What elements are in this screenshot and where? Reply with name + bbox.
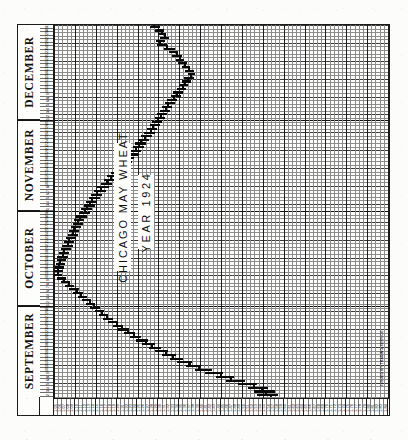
ohlc-open-tick [89, 204, 91, 206]
ohlc-open-tick [176, 94, 178, 96]
month-label-text: DECEMBER [23, 36, 35, 107]
ohlc-open-tick [145, 342, 147, 344]
ohlc-open-tick [127, 331, 129, 333]
month-label-text: NOVEMBER [23, 128, 35, 201]
ohlc-open-tick [144, 138, 146, 140]
day-label-text: 7 [44, 286, 49, 288]
chart-title: CHICAGO MAY WHEAT [114, 143, 131, 271]
ohlc-open-tick [72, 288, 74, 290]
chart-sheet: DECEMBERNOVEMBEROCTOBERSEPTEMBER 3130292… [17, 24, 390, 416]
day-label-text: 5 [44, 197, 49, 199]
ohlc-open-tick [242, 383, 244, 385]
ohlc-open-tick [159, 43, 161, 45]
ohlc-open-tick [140, 142, 142, 144]
price-label: 1.84 [384, 399, 388, 415]
ohlc-open-tick [84, 211, 86, 213]
ohlc-open-tick [89, 302, 91, 304]
ohlc-open-tick [106, 317, 108, 319]
month-label-october: OCTOBER [18, 211, 40, 306]
ohlc-range-bar [257, 394, 278, 396]
ohlc-open-tick [139, 339, 141, 341]
day-label-text: 6 [44, 379, 49, 381]
ohlc-open-tick [157, 120, 159, 122]
ohlc-open-tick [147, 135, 149, 137]
ohlc-open-tick [184, 65, 186, 67]
ohlc-open-tick [198, 368, 200, 370]
day-label-text: 4 [44, 293, 49, 295]
chart-subtitle: YEAR 1924 [138, 175, 154, 249]
ohlc-open-tick [151, 346, 153, 348]
ohlc-open-tick [209, 372, 211, 374]
day-label: 2 [40, 393, 54, 397]
ohlc-open-tick [96, 193, 98, 195]
ohlc-open-tick [161, 32, 163, 34]
ohlc-open-tick [165, 353, 167, 355]
day-label-text: 3 [44, 204, 49, 206]
ohlc-open-tick [116, 324, 118, 326]
day-label-text: 3 [44, 111, 49, 113]
ohlc-open-tick [94, 197, 96, 199]
ohlc-open-tick [103, 186, 105, 188]
ohlc-open-tick [161, 40, 163, 42]
ohlc-bars-layer [54, 25, 389, 398]
ohlc-open-tick [150, 131, 152, 133]
day-label-text: 6 [44, 193, 49, 195]
month-axis: DECEMBERNOVEMBEROCTOBERSEPTEMBER [18, 25, 40, 415]
ohlc-open-tick [101, 313, 103, 315]
ohlc-open-tick [165, 109, 167, 111]
chart-subtitle-text: YEAR 1924 [140, 172, 152, 253]
ohlc-open-tick [84, 299, 86, 301]
ohlc-open-tick [184, 83, 186, 85]
day-label-text: 7 [44, 190, 49, 192]
ohlc-open-tick [188, 69, 190, 71]
month-label-text: SEPTEMBER [23, 313, 35, 389]
day-label-text: 9 [44, 372, 49, 374]
ohlc-open-tick [167, 105, 169, 107]
day-label-text: 2 [44, 115, 49, 117]
day-label-text: 3 [44, 297, 49, 299]
ohlc-open-tick [100, 189, 102, 191]
day-label-text: 8 [44, 376, 49, 378]
day-label-text: 6 [44, 290, 49, 292]
ohlc-open-tick [166, 47, 168, 49]
day-axis: 3130292726252423222019181716151312111098… [40, 25, 54, 415]
month-divider [18, 120, 54, 121]
ohlc-open-tick [179, 91, 181, 93]
ohlc-open-tick [121, 328, 123, 330]
ohlc-open-tick [135, 149, 137, 151]
ohlc-open-tick [132, 153, 134, 155]
ohlc-open-tick [86, 207, 88, 209]
ohlc-open-tick [93, 306, 95, 308]
day-label-text: 5 [44, 383, 49, 385]
ohlc-open-tick [59, 277, 61, 279]
ohlc-open-tick [153, 25, 155, 27]
price-axis: 1.051.061.071.081.091.101.111.121.131.14… [54, 398, 389, 415]
ohlc-open-tick [172, 357, 174, 359]
ohlc-open-tick [220, 375, 222, 377]
price-label-text: 1.84 [383, 404, 388, 412]
publisher-credit: ISSUED BY TRADING SERVICE [377, 323, 386, 393]
day-label-text: 8 [44, 186, 49, 188]
month-label-december: DECEMBER [18, 25, 40, 120]
day-label-text: 8 [44, 283, 49, 285]
ohlc-open-tick [152, 127, 154, 129]
plot-area [54, 25, 389, 398]
ohlc-open-tick [187, 80, 189, 82]
ohlc-open-tick [81, 215, 83, 217]
ohlc-open-tick [97, 310, 99, 312]
month-label-text: OCTOBER [23, 227, 35, 289]
chart-title-text: CHICAGO MAY WHEAT [117, 131, 129, 282]
day-label-text: 4 [44, 107, 49, 109]
day-label-text: 2 [44, 301, 49, 303]
ohlc-open-tick [106, 182, 108, 184]
day-label-text: 4 [44, 200, 49, 202]
month-label-november: NOVEMBER [18, 120, 40, 211]
day-label-text: 9 [44, 279, 49, 281]
ohlc-open-tick [230, 379, 232, 381]
day-label-text: 9 [44, 93, 49, 95]
ohlc-open-tick [182, 87, 184, 89]
ohlc-open-tick [265, 393, 267, 395]
day-label-text: 6 [44, 100, 49, 102]
ohlc-close-tick [270, 395, 272, 397]
ohlc-open-tick [190, 76, 192, 78]
